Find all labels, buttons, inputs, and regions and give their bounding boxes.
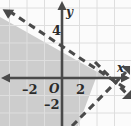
- x-axis-label: x: [117, 62, 124, 74]
- y-tick-label-4: 4: [52, 24, 61, 37]
- origin-label: O: [49, 83, 59, 95]
- y-axis-label: y: [66, 6, 73, 18]
- x-tick-label-2: 2: [76, 83, 85, 96]
- y-tick-label-neg2: –2: [44, 98, 60, 111]
- coordinate-plane-figure: 4 y –2 O 2 –2 x: [0, 0, 131, 126]
- x-tick-label-neg2: –2: [22, 83, 38, 96]
